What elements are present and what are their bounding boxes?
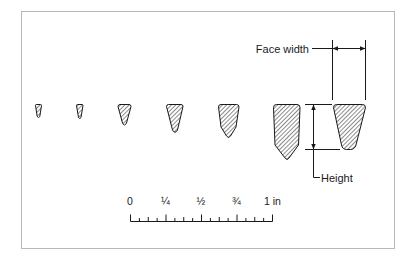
belt-sections: [36, 105, 366, 160]
belt-section-4: [167, 105, 184, 133]
scale-label-three-quarter: ¾: [232, 195, 241, 207]
belt-section-6: [274, 105, 301, 160]
belt-section-5: [219, 105, 240, 138]
belt-diagram: Face width Height 0 ¼ ½ ¾ 1 in: [0, 0, 413, 260]
belt-section-3: [118, 105, 131, 126]
face-width-dimension: Face width: [256, 40, 366, 100]
scale-label-0: 0: [127, 195, 133, 207]
scale-label-one-inch: 1 in: [264, 195, 281, 207]
scale-label-quarter: ¼: [161, 195, 170, 207]
height-leader: [314, 149, 321, 178]
scale-label-half: ½: [197, 195, 206, 207]
height-label: Height: [321, 172, 353, 184]
belt-section-1: [36, 105, 42, 118]
scale-bar: 0 ¼ ½ ¾ 1 in: [127, 195, 281, 222]
scale-ticks: [131, 215, 273, 222]
belt-section-reference: [334, 105, 366, 150]
face-width-label: Face width: [256, 43, 309, 55]
scale-labels: 0 ¼ ½ ¾ 1 in: [127, 195, 281, 207]
belt-section-2: [77, 105, 84, 119]
